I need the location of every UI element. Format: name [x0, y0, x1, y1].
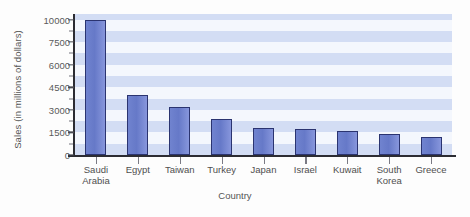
y-tick-mark-minor [69, 121, 73, 122]
y-tick-label: 1500 [49, 127, 70, 138]
bar [211, 119, 232, 155]
bar-chart: Sales (in millions of dollars) 015003000… [0, 0, 470, 217]
y-tick-label: 10000 [44, 14, 70, 25]
y-tick-mark [68, 109, 74, 110]
y-tick-mark-minor [69, 53, 73, 54]
x-tick-mark [264, 157, 265, 164]
y-tick-mark-minor [69, 76, 73, 77]
bar [421, 137, 442, 155]
y-tick-label: 6000 [49, 59, 70, 70]
x-tick-mark [305, 157, 306, 164]
y-tick-mark-minor [69, 98, 73, 99]
y-tick-mark [68, 132, 74, 133]
bar [295, 129, 316, 155]
y-tick-label: 3000 [49, 104, 70, 115]
x-tick-mark [222, 157, 223, 164]
y-tick-mark [68, 42, 74, 43]
x-tick-mark [431, 157, 432, 164]
bar [169, 107, 190, 155]
bar [337, 131, 358, 155]
x-axis-line [68, 155, 456, 157]
x-tick-mark [96, 157, 97, 164]
y-tick-mark [68, 19, 74, 20]
bar [85, 20, 106, 155]
x-axis-title: Country [0, 190, 470, 201]
y-axis-title: Sales (in millions of dollars) [12, 15, 23, 165]
bar [127, 95, 148, 155]
y-tick-mark [68, 64, 74, 65]
bars-layer [75, 14, 452, 155]
y-tick-mark [68, 87, 74, 88]
y-tick-label: 7500 [49, 37, 70, 48]
x-tick-mark [180, 157, 181, 164]
y-tick-mark [68, 154, 74, 155]
y-tick-label: 4500 [49, 82, 70, 93]
plot-area [75, 14, 452, 155]
bar [379, 134, 400, 155]
x-tick-mark [347, 157, 348, 164]
x-tick-mark [389, 157, 390, 164]
x-tick-mark [138, 157, 139, 164]
y-axis-tick-labels: 01500300045006000750010000 [26, 10, 70, 160]
y-tick-mark-minor [69, 143, 73, 144]
x-category-label: Greece [403, 164, 459, 175]
y-tick-mark-minor [69, 30, 73, 31]
bar [253, 128, 274, 155]
